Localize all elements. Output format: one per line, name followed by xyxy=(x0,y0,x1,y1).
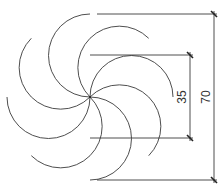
petal-arc xyxy=(31,97,102,168)
technical-drawing: 70 35 xyxy=(0,0,223,193)
center-point xyxy=(89,96,91,98)
petal-arc xyxy=(90,85,161,156)
petal-arc xyxy=(49,14,91,97)
petal-arc xyxy=(19,38,90,109)
petal-arc xyxy=(90,97,132,180)
outer-dimension-label: 70 xyxy=(199,90,213,104)
petal-arc xyxy=(90,56,173,97)
inner-dimension-label: 35 xyxy=(175,90,189,104)
petal-arc xyxy=(78,26,149,97)
petal-arc xyxy=(7,97,90,139)
